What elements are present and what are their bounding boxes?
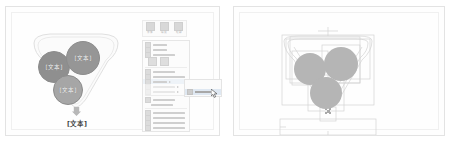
- menu-item-label: [151, 104, 173, 106]
- menu-separator: [145, 95, 187, 96]
- paste-options-row[interactable]: [143, 57, 189, 66]
- wireframe-circle[interactable]: [324, 47, 358, 81]
- mouse-pointer-icon: [211, 89, 218, 98]
- funnel-bottom-label: [文本]: [46, 118, 108, 128]
- arrow-down-icon: [72, 107, 81, 116]
- bubble-label: [文本]: [74, 54, 91, 62]
- funnel-bubble[interactable]: [文本]: [53, 75, 83, 105]
- paste-keep-formatting-icon[interactable]: [148, 57, 157, 66]
- minibar-label: 填充: [161, 32, 167, 35]
- minibar-label: 字体: [147, 32, 153, 35]
- menu-item-label: [153, 117, 185, 119]
- minibar-shape-outline[interactable]: 轮廓: [174, 22, 183, 35]
- send-to-back-icon: [145, 89, 151, 95]
- funnel-wireframe-diagram[interactable]: [272, 27, 392, 135]
- menu-separator: [145, 67, 187, 68]
- wireframe-panel: [233, 6, 445, 136]
- mini-toolbar[interactable]: 字体 填充 轮廓: [142, 20, 187, 37]
- menu-item-format-shape[interactable]: 设置形状格式(O)...: [143, 125, 189, 130]
- chevron-right-icon: [169, 81, 171, 83]
- menu-item-label: [153, 99, 175, 101]
- menu-item-label: [153, 122, 185, 124]
- slide-editing-panel: [文本] [文本] [文本] [文本] 字体: [5, 6, 220, 136]
- chevron-right-icon: [177, 86, 179, 88]
- group-shapes-icon: [187, 89, 193, 95]
- minibar-label: 轮廓: [176, 32, 182, 35]
- funnel-smartart-diagram[interactable]: [文本] [文本] [文本] [文本]: [20, 21, 138, 133]
- minibar-font-color[interactable]: 字体: [146, 22, 155, 35]
- hyperlink-icon: [145, 97, 151, 103]
- funnel-bubble[interactable]: [文本]: [66, 41, 100, 75]
- menu-item-label: [153, 44, 167, 46]
- menu-item-label: [153, 76, 185, 78]
- screenshot-root: [文本] [文本] [文本] [文本] 字体: [0, 0, 450, 142]
- menu-item-smart-lookup[interactable]: 智能查找(L): [143, 102, 189, 107]
- bubble-label: [文本]: [45, 63, 62, 71]
- menu-item-label: [153, 81, 167, 83]
- menu-item-send-to-back[interactable]: 置于底层(K): [143, 89, 189, 94]
- bubble-label: [文本]: [59, 86, 76, 94]
- context-menu[interactable]: 剪切(T) 复制(C) 粘贴选项:: [142, 40, 190, 132]
- menu-item-label: [153, 112, 185, 114]
- menu-item-label: [153, 54, 175, 56]
- format-shape-icon: [145, 125, 151, 131]
- context-submenu[interactable]: 组合(G): [184, 79, 222, 97]
- menu-item-label: [153, 91, 175, 93]
- font-color-icon: [146, 22, 155, 31]
- menu-item-label: [153, 127, 185, 129]
- menu-separator: [145, 108, 187, 109]
- shape-fill-icon: [160, 22, 169, 31]
- shape-outline-icon: [174, 22, 183, 31]
- funnel-outline-icon: [20, 21, 138, 133]
- menu-item-label: [153, 49, 167, 51]
- minibar-shape-fill[interactable]: 填充: [160, 22, 169, 35]
- paste-picture-icon[interactable]: [160, 57, 169, 66]
- slide-canvas[interactable]: [文本] [文本] [文本] [文本] 字体: [11, 12, 214, 130]
- menu-item-label: [153, 71, 175, 73]
- menu-item-label: [153, 86, 175, 88]
- wireframe-circle[interactable]: [310, 77, 342, 109]
- wireframe-canvas[interactable]: [239, 12, 439, 130]
- chevron-right-icon: [177, 91, 179, 93]
